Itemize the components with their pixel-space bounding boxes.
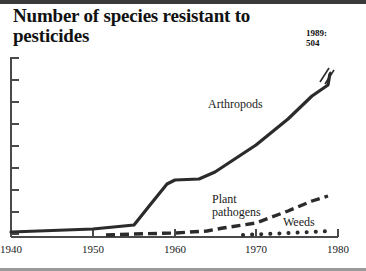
series-line-arthropods — [11, 73, 330, 232]
annotation-value: 504 — [306, 38, 320, 48]
annotation-year: 1989: — [306, 28, 327, 38]
xtick-label-1980: 1980 — [327, 243, 349, 255]
axis-break-strokes — [320, 68, 334, 84]
series-label-arthropods: Arthropods — [208, 98, 263, 111]
xtick-label-1940: 1940 — [0, 243, 22, 255]
y-axis-ticks — [11, 58, 19, 234]
series-label-plant-pathogens: Plantpathogens — [212, 193, 261, 218]
xtick-label-1950: 1950 — [82, 243, 104, 255]
plant-pathogens-line-2: pathogens — [212, 205, 261, 219]
xtick-label-1970: 1970 — [245, 243, 267, 255]
series-label-weeds: Weeds — [283, 216, 315, 229]
xtick-label-1960: 1960 — [164, 243, 186, 255]
end-value-annotation: 1989:504 — [306, 28, 327, 48]
chart-figure: Number of species resistant to pesticide… — [0, 0, 366, 271]
